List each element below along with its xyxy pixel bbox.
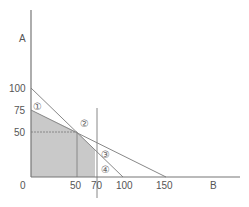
x-tick-150: 150 xyxy=(156,180,173,191)
annotation-2: ② xyxy=(80,118,89,129)
y-tick-100: 100 xyxy=(9,83,26,94)
x-tick-70: 70 xyxy=(91,180,103,191)
origin-label: 0 xyxy=(20,180,26,191)
x-axis-label: B xyxy=(210,180,217,191)
annotation-1: ① xyxy=(33,101,42,112)
y-axis-label: A xyxy=(19,33,26,44)
linear-programming-chart: A B 100 75 50 0 50 70 100 150 ① ② ③ ④ xyxy=(0,0,249,207)
y-tick-50: 50 xyxy=(14,127,26,138)
x-tick-50: 50 xyxy=(70,180,82,191)
annotation-3: ③ xyxy=(101,149,110,160)
annotation-4: ④ xyxy=(101,164,110,175)
y-tick-75: 75 xyxy=(14,105,26,116)
x-tick-100: 100 xyxy=(116,180,133,191)
